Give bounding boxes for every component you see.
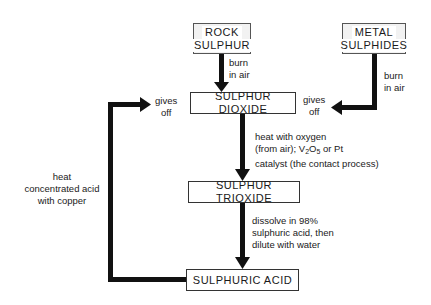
label-dissolve: dissolve in 98% sulphuric acid, then dil… — [252, 215, 334, 251]
label-contact-process: heat with oxygen (from air); V2O5 or Pt … — [255, 131, 379, 170]
label-metal-gives-off: gives off — [303, 94, 325, 118]
label-metal-burn: burn in air — [384, 70, 405, 94]
arrow-trioxide-to-acid — [235, 203, 250, 269]
label-heat-copper: heat concentrated acid with copper — [18, 171, 106, 207]
arrow-dioxide-to-trioxide — [235, 113, 250, 181]
arrow-rock-to-dioxide — [214, 53, 229, 92]
label-rock-burn: burn in air — [229, 57, 250, 81]
node-metal-sulphides: METAL SULPHIDES — [342, 23, 406, 54]
node-sulphur-dioxide: SULPHUR DIOXIDE — [190, 92, 296, 114]
node-rock-sulphur-line1: ROCK — [202, 26, 242, 39]
node-metal-sulphides-line2: SULPHIDES — [338, 39, 411, 52]
node-rock-sulphur: ROCK SULPHUR — [193, 23, 251, 54]
node-sulphuric-acid: SULPHURIC ACID — [186, 269, 299, 291]
label-acid-gives-off: gives off — [155, 95, 177, 119]
arrow-metal-to-dioxide — [331, 53, 377, 115]
node-metal-sulphides-line1: METAL — [352, 26, 396, 39]
node-sulphur-trioxide: SULPHUR TRIOXIDE — [188, 181, 300, 203]
arrow-acid-to-dioxide — [108, 97, 186, 282]
node-rock-sulphur-line2: SULPHUR — [191, 39, 253, 52]
